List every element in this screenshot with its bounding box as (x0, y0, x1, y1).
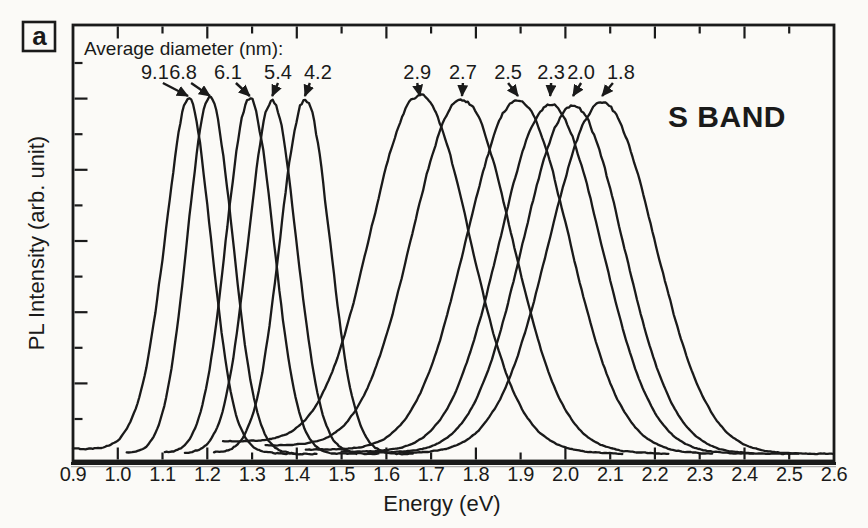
diameter-arrow (508, 83, 518, 96)
x-tick-label: 1.7 (418, 463, 445, 485)
x-tick-label: 1.5 (328, 463, 355, 485)
x-tick-label: 1.3 (239, 463, 266, 485)
pl-curve (223, 94, 622, 454)
diameter-label: 6.1 (214, 61, 242, 83)
x-tick-label: 1.2 (194, 463, 221, 485)
pl-curve (185, 100, 378, 455)
x-tick-label: 1.1 (149, 463, 176, 485)
diameter-arrow (550, 83, 551, 96)
diameter-label: 5.4 (264, 61, 292, 83)
diameter-label: 2.0 (567, 61, 595, 83)
diameter-arrow (236, 83, 250, 96)
diameter-label: 6.8 (169, 61, 197, 83)
diameter-arrow (191, 83, 210, 96)
diameter-arrow (163, 83, 188, 96)
x-tick-label: 1.4 (283, 463, 310, 485)
diameter-arrow (602, 83, 613, 96)
pl-curve (368, 106, 798, 455)
pl-curves (73, 94, 833, 454)
x-tick-label: 1.0 (104, 463, 131, 485)
y-axis-label: PL Intensity (arb. unit) (24, 136, 49, 350)
x-tick-label: 2.0 (552, 463, 579, 485)
x-tick-label: 0.9 (60, 463, 87, 485)
annotation-title: Average diameter (nm): (84, 38, 283, 59)
x-tick-label: 1.6 (373, 463, 400, 485)
diameter-label: 9.1 (141, 61, 169, 83)
pl-spectra-plot: 0.91.01.11.21.31.41.51.61.71.81.92.02.12… (0, 0, 868, 528)
x-axis-label: Energy (eV) (383, 491, 500, 516)
diameter-label: 4.2 (304, 61, 332, 83)
x-tick-label: 2.6 (821, 463, 848, 485)
x-tick-label: 1.8 (463, 463, 490, 485)
panel-label-box: a (23, 21, 55, 51)
x-tick-label: 2.2 (642, 463, 669, 485)
x-tick-label: 2.5 (776, 463, 803, 485)
diameter-arrow (272, 83, 278, 96)
diameter-label: 2.7 (449, 61, 477, 83)
x-tick-label: 2.4 (731, 463, 758, 485)
diameter-label: 2.5 (494, 61, 522, 83)
diameter-label: 2.9 (403, 61, 431, 83)
diameter-arrow (462, 83, 463, 96)
x-tick-label: 2.3 (686, 463, 713, 485)
pl-curve (400, 102, 833, 454)
band-label: S BAND (668, 100, 786, 133)
diameter-arrow (305, 83, 310, 96)
x-tick-label: 1.9 (507, 463, 534, 485)
diameter-label: 2.3 (537, 61, 565, 83)
panel-label: a (32, 21, 47, 51)
diameter-labels: 9.16.86.15.44.22.92.72.52.32.01.8 (141, 61, 635, 83)
x-tick-label: 2.1 (597, 463, 624, 485)
pl-curve (266, 100, 669, 454)
diameter-arrow (417, 83, 420, 96)
pl-curve (165, 98, 357, 454)
diameter-arrows (163, 83, 613, 96)
diameter-arrow (573, 83, 581, 96)
pl-curve (306, 100, 712, 453)
pl-spectra-figure: 0.91.01.11.21.31.41.51.61.71.81.92.02.12… (0, 0, 868, 528)
diameter-label: 1.8 (607, 61, 635, 83)
